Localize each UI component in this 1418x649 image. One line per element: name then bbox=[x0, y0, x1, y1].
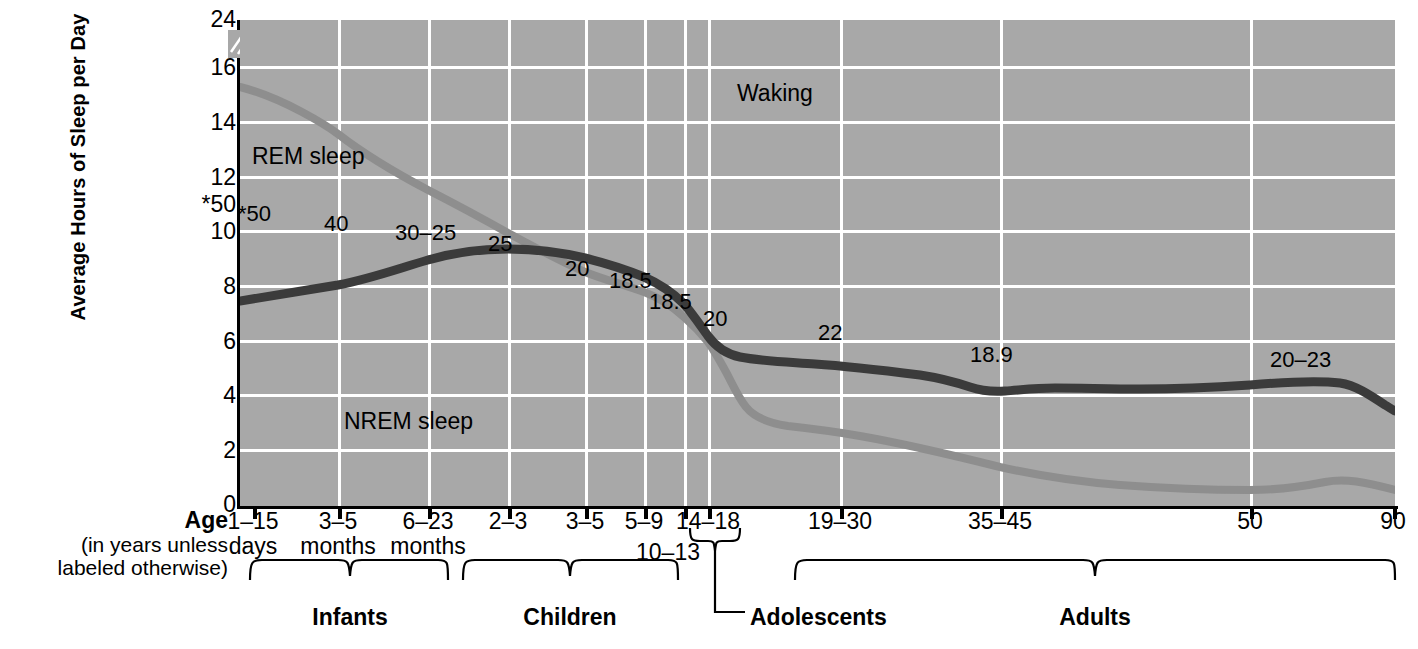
group-label-children: Children bbox=[510, 604, 630, 631]
brace-infants bbox=[250, 560, 448, 580]
brace-children bbox=[463, 560, 678, 580]
group-braces bbox=[0, 0, 1418, 649]
group-label-adults: Adults bbox=[1035, 604, 1155, 631]
group-label-infants: Infants bbox=[290, 604, 410, 631]
brace-adolescents-leader bbox=[715, 551, 745, 612]
brace-adolescents bbox=[690, 528, 740, 551]
group-label-adolescents: Adolescents bbox=[750, 604, 920, 631]
sleep-chart-figure: Average Hours of Sleep per Day 24 16 14 … bbox=[0, 0, 1418, 649]
brace-adults bbox=[795, 560, 1395, 580]
